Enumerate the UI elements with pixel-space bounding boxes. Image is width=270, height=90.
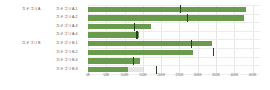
bar-row[interactable]: [88, 5, 260, 14]
target-marker: [136, 31, 137, 39]
chart-root: カテゴリAカテゴリB カテゴリA-1カテゴリA-2カテゴリA-3カテゴリA-4カ…: [0, 0, 270, 90]
value-bar[interactable]: [88, 50, 193, 55]
axis-tick-label: 300K: [194, 74, 202, 77]
axis-tick-label: 0K: [86, 74, 90, 77]
subcategory-label: カテゴリA-2: [56, 16, 88, 20]
target-marker: [180, 5, 181, 13]
bar-rows: [88, 5, 260, 74]
value-bar[interactable]: [88, 7, 246, 12]
subcategory-label: カテゴリA-4: [56, 33, 88, 37]
subcategory-label: カテゴリA-3: [56, 25, 88, 29]
subcategory-label: カテゴリA-1: [56, 8, 88, 12]
target-marker: [213, 48, 214, 56]
bar-row[interactable]: [88, 14, 260, 23]
target-marker: [133, 57, 134, 65]
bar-row[interactable]: [88, 57, 260, 66]
axis-tick-label: 250K: [176, 74, 184, 77]
axis-tick-label: 50K: [103, 74, 109, 77]
bar-row[interactable]: [88, 22, 260, 31]
target-marker: [191, 40, 192, 48]
axis-tick-label: 450K: [249, 74, 257, 77]
target-marker: [134, 23, 135, 31]
subcategory-label: カテゴリB-2: [56, 51, 88, 55]
value-bar[interactable]: [88, 41, 212, 46]
plot-area: [88, 5, 260, 74]
bar-row[interactable]: [88, 31, 260, 40]
bar-row[interactable]: [88, 48, 260, 57]
value-bar[interactable]: [88, 67, 128, 72]
subcategory-label: カテゴリB-1: [56, 42, 88, 46]
axis-tick-label: 400K: [230, 74, 238, 77]
subcategory-label: カテゴリB-3: [56, 68, 88, 72]
value-bar[interactable]: [88, 15, 244, 20]
bar-row[interactable]: [88, 39, 260, 48]
axis-tick-label: 200K: [157, 74, 165, 77]
value-bar[interactable]: [88, 24, 151, 29]
axis-tick-label: 150K: [139, 74, 147, 77]
subcategory-label: カテゴリB-4: [56, 59, 88, 63]
target-marker: [187, 14, 188, 22]
bullet-bar-chart: カテゴリAカテゴリB カテゴリA-1カテゴリA-2カテゴリA-3カテゴリA-4カ…: [0, 0, 270, 90]
x-axis: 0K50K100K150K200K250K300K350K400K450K: [88, 74, 260, 83]
axis-tick-label: 100K: [121, 74, 129, 77]
value-bar[interactable]: [88, 32, 139, 37]
axis-tick-label: 350K: [212, 74, 220, 77]
